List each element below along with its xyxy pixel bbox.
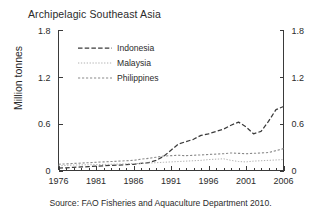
y-tick-label-left: 0.6	[38, 119, 51, 129]
x-tick-label: 1976	[48, 176, 68, 186]
y-tick-label-right: 1.8	[292, 26, 305, 36]
y-tick-labels-right: 00.61.21.8	[292, 26, 305, 177]
y-tick-labels-left: 00.61.21.8	[38, 26, 51, 177]
x-tick-labels: 1976198119861991199620012006	[48, 176, 293, 186]
plot-canvas: 00.61.21.8 00.61.21.8 197619811986199119…	[0, 0, 321, 224]
chart-figure: Archipelagic Southeast Asia Million tonn…	[0, 0, 321, 224]
legend-label-malaysia: Malaysia	[117, 58, 151, 68]
legend-label-indonesia: Indonesia	[117, 43, 154, 53]
x-tick-label: 1996	[198, 176, 218, 186]
y-tick-label-left: 1.8	[38, 26, 51, 36]
data-series-group	[59, 106, 284, 168]
series-line-indonesia	[59, 106, 284, 168]
x-tick-label: 1986	[123, 176, 143, 186]
x-tick-label: 1991	[161, 176, 181, 186]
x-tick-label: 1981	[86, 176, 106, 186]
legend-label-philippines: Philippines	[117, 73, 159, 83]
y-tick-label-right: 1.2	[292, 73, 305, 83]
y-tick-label-left: 1.2	[38, 73, 51, 83]
x-tick-label: 2006	[273, 176, 293, 186]
x-tick-label: 2001	[236, 176, 256, 186]
chart-legend: IndonesiaMalaysiaPhilippines	[78, 43, 159, 83]
source-note: Source: FAO Fisheries and Aquaculture De…	[0, 198, 321, 208]
y-ticks-right	[280, 31, 284, 172]
y-tick-label-right: 0.6	[292, 119, 305, 129]
y-ticks-left	[59, 31, 63, 172]
